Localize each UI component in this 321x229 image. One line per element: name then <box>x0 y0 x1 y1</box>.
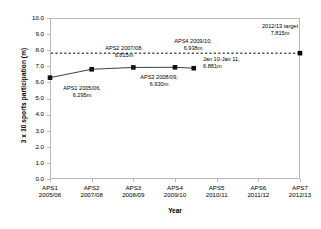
series-marker <box>131 65 136 70</box>
target-marker <box>298 51 303 56</box>
series-marker <box>173 65 178 70</box>
data-label-target: 2012/13 target 7.815m <box>249 23 311 36</box>
data-label-aps4-line2: 6.938m <box>162 45 224 52</box>
data-label-aps3: APS3 2008/09, 6.930m <box>124 74 194 87</box>
series-marker <box>48 75 53 80</box>
series-marker <box>89 67 94 72</box>
data-label-target-line2: 7.815m <box>249 30 311 37</box>
data-label-aps1-line2: 6.295m <box>46 92 118 99</box>
series-marker <box>191 66 196 71</box>
data-label-aps3-line1: APS3 2008/09, <box>140 74 178 80</box>
chart-container: 3 x 30 sports participation (m) 0.01.02.… <box>0 0 321 229</box>
data-label-jan-line1: Jan 10-Jan 11, <box>203 56 240 62</box>
data-label-target-line1: 2012/13 target <box>262 23 298 29</box>
target-line <box>51 51 302 56</box>
data-label-jan: Jan 10-Jan 11, 6.881m <box>203 56 265 69</box>
data-label-aps2-line2: 6.815m <box>93 52 155 59</box>
data-label-aps1: APS1 2005/06, 6.295m <box>46 85 118 98</box>
data-label-aps4: APS4 2009/10, 6.938m <box>162 38 224 51</box>
data-label-jan-line2: 6.881m <box>203 63 265 70</box>
data-label-aps2-line1: APS2 2007/08, <box>105 45 143 51</box>
data-label-aps4-line1: APS4 2009/10, <box>174 38 212 44</box>
data-label-aps1-line1: APS1 2005/06, <box>63 85 101 91</box>
data-label-aps2: APS2 2007/08, 6.815m <box>93 45 155 58</box>
x-axis-title: Year <box>50 207 300 214</box>
data-label-aps3-line2: 6.930m <box>124 81 194 88</box>
